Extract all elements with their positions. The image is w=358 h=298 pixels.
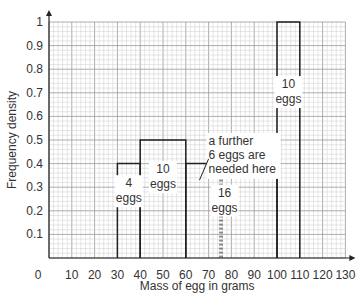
y-tick-label: 0.3 xyxy=(26,180,43,194)
x-tick-label: 30 xyxy=(111,268,125,282)
bar-label: eggs xyxy=(116,191,142,205)
y-tick-label: 0.6 xyxy=(26,109,43,123)
x-tick-label: 20 xyxy=(88,268,102,282)
x-tick-label: 120 xyxy=(313,268,333,282)
y-tick-label: 0.2 xyxy=(26,204,43,218)
x-tick-label: 130 xyxy=(335,268,355,282)
y-tick-label: 0.5 xyxy=(26,133,43,147)
bar-label: 16 xyxy=(218,186,232,200)
y-tick-label: 0.9 xyxy=(26,39,43,53)
annotation-text: 6 eggs are xyxy=(209,148,266,162)
annotation-text: needed here xyxy=(209,162,277,176)
bar-label: 10 xyxy=(156,162,170,176)
bar-label: eggs xyxy=(275,92,301,106)
bar-label: eggs xyxy=(150,177,176,191)
bar-label: 4 xyxy=(125,176,132,190)
y-tick-label: 0.7 xyxy=(26,86,43,100)
y-tick-label: 0.1 xyxy=(26,227,43,241)
y-axis-label: Frequency density xyxy=(5,91,19,189)
x-tick-label: 0 xyxy=(35,268,42,282)
x-tick-label: 100 xyxy=(267,268,287,282)
y-tick-label: 0.8 xyxy=(26,62,43,76)
y-tick-label: 1 xyxy=(36,15,43,29)
x-tick-label: 10 xyxy=(65,268,79,282)
bar-label: eggs xyxy=(212,201,238,215)
annotation-text: a further xyxy=(209,134,254,148)
x-tick-label: 110 xyxy=(290,268,309,282)
x-axis-label: Mass of egg in grams xyxy=(140,279,255,293)
y-tick-label: 0.4 xyxy=(26,157,43,171)
histogram: 01020304050607080901001101201300.10.20.3… xyxy=(0,0,358,298)
bar-label: 10 xyxy=(282,77,296,91)
